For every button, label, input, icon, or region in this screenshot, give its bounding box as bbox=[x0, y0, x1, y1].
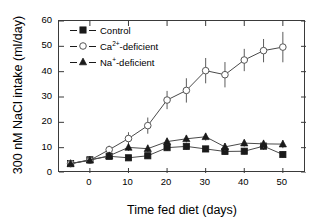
data-point-circle bbox=[260, 47, 267, 54]
data-point-circle bbox=[144, 122, 151, 129]
chart-legend: ControlCa2+-deficientNa+-deficient bbox=[70, 22, 190, 70]
data-point-triangle bbox=[202, 133, 209, 140]
legend-marker-icon bbox=[77, 56, 89, 68]
legend-line-left bbox=[70, 30, 77, 31]
x-tick-label: 10 bbox=[116, 177, 140, 187]
y-tick-label: 50 bbox=[30, 40, 52, 50]
legend-label: Na+-deficient bbox=[96, 57, 155, 68]
y-tick-label: 0 bbox=[30, 167, 52, 177]
chart-figure: 300 nM NaCl intake (ml/day) 010203040506… bbox=[0, 0, 330, 224]
legend-line-right bbox=[89, 46, 96, 47]
legend-circle-icon bbox=[80, 43, 87, 50]
legend-item-2[interactable]: Ca2+-deficient bbox=[70, 38, 190, 54]
legend-label-superscript: 2+ bbox=[112, 39, 119, 46]
data-point-square bbox=[241, 148, 247, 154]
data-point-square bbox=[125, 155, 131, 161]
legend-triangle-icon bbox=[79, 58, 86, 65]
legend-marker-icon bbox=[77, 24, 89, 36]
legend-item-1[interactable]: Control bbox=[70, 22, 190, 38]
legend-marker-key bbox=[70, 24, 96, 36]
legend-label-suffix: -deficient bbox=[120, 41, 159, 52]
x-tick-label: 30 bbox=[193, 177, 217, 187]
data-point-square bbox=[203, 146, 209, 152]
data-point-circle bbox=[164, 97, 171, 104]
legend-line-right bbox=[89, 62, 96, 63]
x-axis-tick-labels: 01020304050 bbox=[58, 177, 305, 189]
legend-label: Control bbox=[96, 25, 131, 36]
series-na-deficient bbox=[67, 133, 286, 167]
data-point-circle bbox=[125, 135, 132, 142]
data-point-triangle bbox=[279, 140, 286, 147]
legend-label-suffix: -deficient bbox=[116, 57, 155, 68]
data-point-square bbox=[280, 151, 286, 157]
y-tick-label: 10 bbox=[30, 142, 52, 152]
series-line bbox=[71, 137, 283, 164]
data-point-circle bbox=[241, 57, 248, 64]
legend-label: Ca2+-deficient bbox=[96, 41, 158, 52]
legend-line-left bbox=[70, 62, 77, 63]
data-point-circle bbox=[183, 87, 190, 94]
legend-marker-key bbox=[70, 56, 96, 68]
y-tick-label: 40 bbox=[30, 66, 52, 76]
x-tick-label: 20 bbox=[154, 177, 178, 187]
y-axis-tick-labels: 0102030405060 bbox=[28, 20, 52, 172]
legend-marker-icon bbox=[77, 40, 89, 52]
legend-marker-key bbox=[70, 40, 96, 52]
legend-label-base: Na bbox=[100, 57, 112, 68]
data-point-square bbox=[145, 153, 151, 159]
legend-square-icon bbox=[80, 27, 86, 33]
data-point-triangle bbox=[241, 139, 248, 146]
x-tick-label: 0 bbox=[77, 177, 101, 187]
data-point-square bbox=[183, 143, 189, 149]
data-point-circle bbox=[202, 67, 209, 74]
x-tick-label: 40 bbox=[231, 177, 255, 187]
y-axis-title: 300 nM NaCl intake (ml/day) bbox=[11, 9, 25, 181]
y-tick-label: 20 bbox=[30, 116, 52, 126]
data-point-circle bbox=[280, 44, 287, 51]
legend-label-base: Ca bbox=[100, 41, 112, 52]
x-tick-label: 50 bbox=[270, 177, 294, 187]
x-axis-title: Time fed diet (days) bbox=[58, 203, 306, 217]
y-tick-label: 30 bbox=[30, 91, 52, 101]
y-tick-label: 60 bbox=[30, 15, 52, 25]
legend-line-left bbox=[70, 46, 77, 47]
legend-line-right bbox=[89, 30, 96, 31]
data-point-square bbox=[164, 145, 170, 151]
legend-item-3[interactable]: Na+-deficient bbox=[70, 54, 190, 70]
data-point-circle bbox=[222, 71, 229, 78]
data-point-triangle bbox=[125, 144, 132, 151]
series-line bbox=[71, 146, 283, 163]
